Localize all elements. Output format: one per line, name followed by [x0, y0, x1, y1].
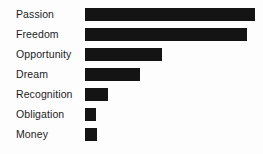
bar-money	[85, 128, 97, 141]
bar-dream	[85, 68, 140, 81]
category-label-opportunity: Opportunity	[16, 44, 71, 64]
category-label-freedom: Freedom	[16, 24, 59, 44]
bar-track-freedom	[85, 28, 247, 41]
chart-row: Recognition	[0, 84, 263, 104]
category-label-money: Money	[16, 124, 48, 144]
bar-recognition	[85, 88, 108, 101]
bar-passion	[85, 8, 255, 21]
bar-track-dream	[85, 68, 140, 81]
category-label-dream: Dream	[16, 64, 48, 84]
bar-obligation	[85, 108, 96, 121]
category-label-passion: Passion	[16, 4, 54, 24]
bar-opportunity	[85, 48, 162, 61]
category-label-recognition: Recognition	[16, 84, 73, 104]
chart-row: Money	[0, 124, 263, 144]
chart-row: Obligation	[0, 104, 263, 124]
horizontal-bar-chart: Passion Freedom Opportunity Dream Recogn…	[0, 0, 263, 154]
chart-row: Opportunity	[0, 44, 263, 64]
category-label-obligation: Obligation	[16, 104, 64, 124]
bar-track-passion	[85, 8, 255, 21]
bar-track-opportunity	[85, 48, 162, 61]
chart-row: Dream	[0, 64, 263, 84]
bar-track-money	[85, 128, 97, 141]
bar-track-recognition	[85, 88, 108, 101]
bar-freedom	[85, 28, 247, 41]
chart-row: Passion	[0, 4, 263, 24]
bar-track-obligation	[85, 108, 96, 121]
chart-row: Freedom	[0, 24, 263, 44]
